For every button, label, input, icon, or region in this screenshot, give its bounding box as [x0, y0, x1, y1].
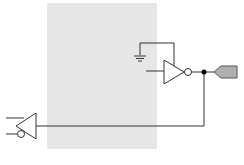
- feedback-wire: [36, 72, 204, 126]
- schematic-drawing: [0, 0, 244, 165]
- ground-icon: [134, 56, 146, 61]
- junction-dot-icon: [202, 70, 207, 75]
- inversion-bubble-icon: [185, 69, 192, 76]
- io-pad-icon: [214, 66, 237, 78]
- schematic-canvas: [0, 0, 244, 165]
- enable-bubble-icon: [18, 131, 25, 138]
